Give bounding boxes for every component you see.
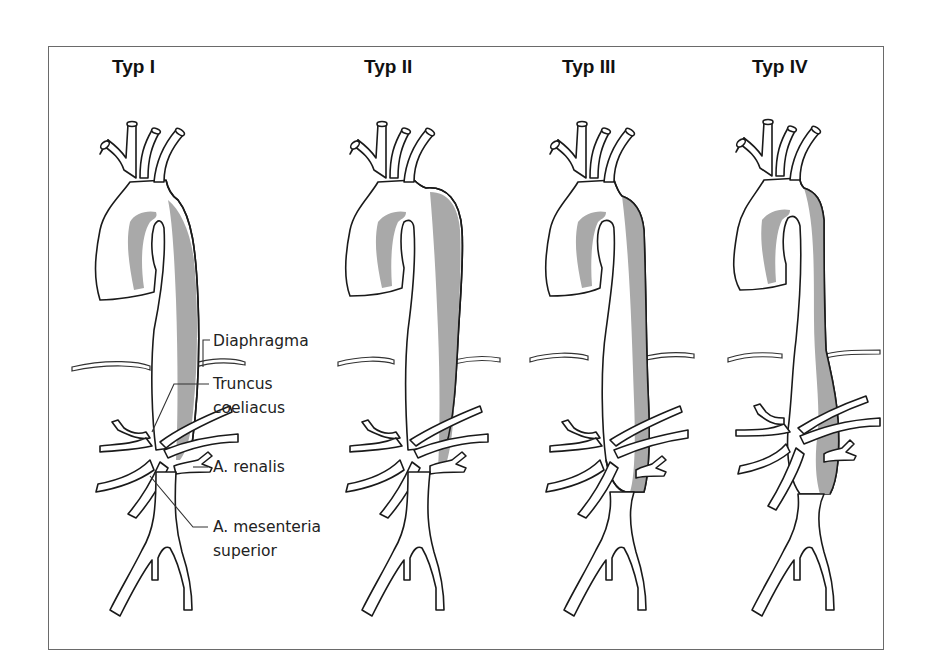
panel-title: Typ IV <box>752 56 808 77</box>
label-renalis: A. renalis <box>213 458 285 476</box>
label-mesenteria-line2: superior <box>213 542 277 560</box>
aortic-dissection-diagram: Typ I Typ II <box>0 0 937 671</box>
label-mesenteria-line1: A. mesenteria <box>213 518 321 536</box>
label-diaphragma: Diaphragma <box>213 332 309 350</box>
panel-typ-3: Typ III <box>530 56 694 616</box>
panel-typ-2: Typ II <box>338 56 500 616</box>
panel-typ-4: Typ IV <box>728 56 880 616</box>
panel-title: Typ III <box>562 56 615 77</box>
label-truncus-line1: Truncus <box>212 375 273 393</box>
panel-title: Typ II <box>364 56 412 77</box>
label-truncus-line2: coeliacus <box>213 399 285 417</box>
panel-title: Typ I <box>112 56 155 77</box>
